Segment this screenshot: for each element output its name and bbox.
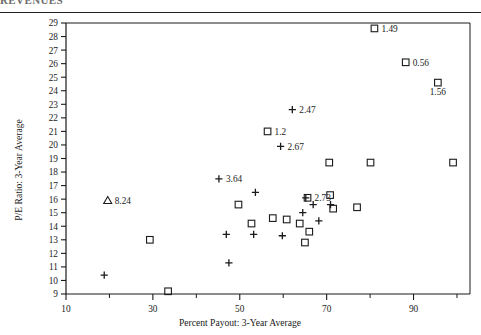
- marker-plus: [315, 217, 322, 224]
- y-tick-label: 21: [49, 127, 59, 137]
- x-axis-ticks: [66, 294, 457, 300]
- marker-square: [264, 128, 271, 135]
- y-tick-label: 16: [49, 195, 59, 205]
- y-tick-label: 12: [49, 249, 59, 259]
- marker-square: [367, 159, 374, 166]
- marker-plus: [252, 189, 259, 196]
- marker-plus: [289, 106, 296, 113]
- data-point-label: 8.24: [115, 196, 132, 206]
- marker-plus: [250, 231, 257, 238]
- y-tick-label: 9: [53, 289, 58, 299]
- figure-container: REVENUES 9101112131415161718192021222324…: [0, 0, 481, 335]
- marker-square: [283, 216, 290, 223]
- data-point-label: 1.56: [430, 87, 447, 97]
- marker-plus: [277, 143, 284, 150]
- marker-square: [326, 159, 333, 166]
- y-tick-label: 23: [49, 100, 59, 110]
- x-tick-label: 10: [61, 304, 71, 314]
- marker-square: [147, 237, 154, 244]
- y-tick-label: 11: [49, 262, 58, 272]
- y-tick-label: 29: [49, 18, 59, 28]
- y-tick-label: 28: [49, 32, 59, 42]
- data-point-label: 0.56: [413, 58, 430, 68]
- marker-square: [302, 239, 309, 246]
- data-markers: [101, 25, 457, 294]
- marker-square: [248, 220, 255, 227]
- y-axis-title: P/E Ratio: 3-Year Average: [13, 119, 24, 220]
- x-tick-label: 50: [235, 304, 245, 314]
- marker-triangle: [104, 197, 112, 204]
- y-tick-label: 22: [49, 113, 59, 123]
- marker-square: [435, 79, 442, 86]
- x-tick-label: 30: [148, 304, 158, 314]
- marker-square: [354, 204, 361, 211]
- y-axis-tick-labels: 9101112131415161718192021222324252627282…: [49, 18, 59, 299]
- marker-square: [402, 59, 409, 66]
- x-axis-title: Percent Payout: 3-Year Average: [179, 317, 301, 328]
- x-axis-tick-labels: 1030507090: [61, 304, 418, 314]
- y-tick-label: 24: [49, 86, 59, 96]
- marker-square: [450, 159, 457, 166]
- data-point-label: 2.47: [299, 105, 316, 115]
- marker-square: [296, 220, 303, 227]
- marker-square: [269, 215, 276, 222]
- y-tick-label: 19: [49, 154, 59, 164]
- marker-plus: [215, 175, 222, 182]
- data-point-label: 2.67: [288, 142, 305, 152]
- scatter-plot: 9101112131415161718192021222324252627282…: [0, 0, 481, 335]
- data-point-label: 2.73: [315, 193, 332, 203]
- y-axis-ticks: [61, 23, 66, 294]
- y-tick-label: 27: [49, 46, 59, 56]
- marker-plus: [302, 194, 309, 201]
- y-tick-label: 18: [49, 167, 59, 177]
- data-point-label: 1.49: [381, 24, 398, 34]
- y-tick-label: 13: [49, 235, 59, 245]
- y-tick-label: 25: [49, 73, 59, 83]
- y-tick-label: 14: [49, 222, 59, 232]
- page-header-text: REVENUES: [0, 0, 63, 6]
- header-divider-rule: [0, 12, 481, 13]
- marker-square: [371, 25, 378, 32]
- y-tick-label: 10: [49, 276, 59, 286]
- data-point-label: 1.2: [275, 127, 287, 137]
- x-tick-label: 70: [322, 304, 332, 314]
- x-tick-label: 90: [409, 304, 419, 314]
- y-tick-label: 20: [49, 140, 59, 150]
- data-point-label: 3.64: [226, 174, 243, 184]
- marker-plus: [225, 259, 232, 266]
- y-tick-label: 26: [49, 59, 59, 69]
- marker-plus: [279, 232, 286, 239]
- y-tick-label: 15: [49, 208, 59, 218]
- marker-plus: [223, 231, 230, 238]
- marker-plus: [101, 271, 108, 278]
- y-tick-label: 17: [49, 181, 59, 191]
- marker-square: [235, 201, 242, 208]
- marker-square: [306, 228, 313, 235]
- data-point-labels: 1.490.561.561.22.732.472.673.648.24: [115, 24, 447, 206]
- marker-plus: [299, 209, 306, 216]
